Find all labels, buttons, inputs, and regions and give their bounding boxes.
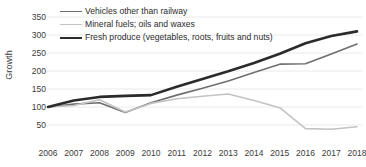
x-axis-tick-label: 2012 [193, 149, 212, 158]
legend-label: Mineral fuels; oils and waxes [85, 20, 195, 29]
x-axis-tick-label: 2008 [90, 149, 109, 158]
legend-item: Fresh produce (vegetables, roots, fruits… [60, 31, 350, 44]
series-lines [48, 31, 357, 129]
x-axis-tick-label: 2017 [322, 149, 341, 158]
legend-label: Fresh produce (vegetables, roots, fruits… [85, 33, 273, 42]
x-axis-tick-label: 2015 [270, 149, 289, 158]
x-axis-tick-label: 2013 [219, 149, 238, 158]
chart-legend: Vehicles other than railwayMineral fuels… [60, 5, 350, 44]
x-axis-tick-label: 2007 [64, 149, 83, 158]
x-axis-tick-labels: 2006200720082009201020112012201320142015… [0, 149, 365, 163]
legend-item: Mineral fuels; oils and waxes [60, 18, 350, 31]
x-axis-tick-label: 2016 [296, 149, 315, 158]
x-axis-tick-label: 2006 [39, 149, 58, 158]
legend-line-swatch [60, 37, 82, 39]
x-axis-tick-label: 2014 [245, 149, 264, 158]
x-axis-tick-label: 2011 [168, 149, 186, 158]
x-axis-tick-label: 2010 [142, 149, 161, 158]
legend-line-swatch [60, 11, 82, 12]
legend-line-swatch [60, 24, 82, 25]
series-line [48, 94, 357, 129]
legend-label: Vehicles other than railway [85, 7, 187, 16]
legend-item: Vehicles other than railway [60, 5, 350, 18]
x-axis-tick-label: 2009 [116, 149, 135, 158]
x-axis-tick-label: 2018 [348, 149, 366, 158]
